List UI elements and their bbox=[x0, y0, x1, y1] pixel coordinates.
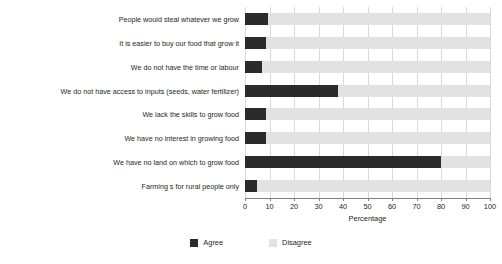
bar-row bbox=[245, 55, 490, 79]
bar-rows bbox=[245, 7, 490, 198]
x-axis-tick-label: 20 bbox=[290, 202, 298, 212]
category-label: We have no land on which to grow food bbox=[0, 158, 245, 167]
category-label: We do not have access to inputs (seeds, … bbox=[0, 86, 245, 95]
x-axis-tick-label: 10 bbox=[265, 202, 273, 212]
bar-row bbox=[245, 150, 490, 174]
bar-segment-agree[interactable] bbox=[245, 13, 268, 25]
chart-legend: Agree Disagree bbox=[0, 238, 502, 247]
x-axis-tick bbox=[417, 198, 418, 201]
bar-segment-disagree[interactable] bbox=[266, 108, 490, 120]
x-axis-tick-label: 70 bbox=[412, 202, 420, 212]
stacked-bar-chart: People would steal whatever we growIt is… bbox=[0, 0, 502, 264]
bar-segment-agree[interactable] bbox=[245, 108, 266, 120]
x-axis-tick-label: 40 bbox=[339, 202, 347, 212]
stacked-bar[interactable] bbox=[245, 180, 490, 192]
bar-row bbox=[245, 174, 490, 198]
legend-swatch-agree-icon bbox=[190, 239, 198, 247]
x-axis-tick-labels: 0102030405060708090100 bbox=[245, 202, 490, 214]
bar-segment-disagree[interactable] bbox=[441, 156, 490, 168]
category-label: Farming s for rural people only bbox=[0, 182, 245, 191]
x-axis-tick-label: 30 bbox=[314, 202, 322, 212]
x-axis-tick bbox=[343, 198, 344, 201]
bar-segment-agree[interactable] bbox=[245, 37, 266, 49]
bar-row bbox=[245, 31, 490, 55]
category-label: People would steal whatever we grow bbox=[0, 14, 245, 23]
x-axis-tick bbox=[392, 198, 393, 201]
x-axis-tick bbox=[294, 198, 295, 201]
plot-area bbox=[245, 7, 490, 198]
bar-segment-disagree[interactable] bbox=[266, 37, 490, 49]
bar-segment-agree[interactable] bbox=[245, 156, 441, 168]
bar-row bbox=[245, 103, 490, 127]
x-axis-tick bbox=[270, 198, 271, 201]
bar-segment-disagree[interactable] bbox=[338, 85, 490, 97]
legend-item-disagree[interactable]: Disagree bbox=[269, 238, 312, 247]
x-axis-tick bbox=[368, 198, 369, 201]
bar-row bbox=[245, 79, 490, 103]
bar-segment-disagree[interactable] bbox=[257, 180, 490, 192]
x-axis-tick bbox=[441, 198, 442, 201]
x-axis-tick-label: 80 bbox=[437, 202, 445, 212]
x-axis-tick bbox=[245, 198, 246, 201]
stacked-bar[interactable] bbox=[245, 61, 490, 73]
bar-segment-disagree[interactable] bbox=[262, 61, 490, 73]
bar-row bbox=[245, 7, 490, 31]
legend-label-agree: Agree bbox=[203, 238, 223, 247]
bar-row bbox=[245, 126, 490, 150]
x-axis-tick-label: 60 bbox=[388, 202, 396, 212]
category-label: We have no interest in growing food bbox=[0, 134, 245, 143]
bar-segment-agree[interactable] bbox=[245, 85, 338, 97]
stacked-bar[interactable] bbox=[245, 85, 490, 97]
bar-segment-disagree[interactable] bbox=[268, 13, 490, 25]
category-label: We lack the skills to grow food bbox=[0, 110, 245, 119]
legend-item-agree[interactable]: Agree bbox=[190, 238, 223, 247]
stacked-bar[interactable] bbox=[245, 132, 490, 144]
x-axis-title: Percentage bbox=[245, 214, 490, 224]
stacked-bar[interactable] bbox=[245, 37, 490, 49]
stacked-bar[interactable] bbox=[245, 108, 490, 120]
x-axis-tick-label: 90 bbox=[461, 202, 469, 212]
legend-swatch-disagree-icon bbox=[269, 239, 277, 247]
bar-segment-agree[interactable] bbox=[245, 61, 262, 73]
category-label: It is easier to buy our food that grow i… bbox=[0, 38, 245, 47]
bar-segment-disagree[interactable] bbox=[266, 132, 490, 144]
bar-segment-agree[interactable] bbox=[245, 180, 257, 192]
stacked-bar[interactable] bbox=[245, 156, 490, 168]
x-axis-tick bbox=[466, 198, 467, 201]
stacked-bar[interactable] bbox=[245, 13, 490, 25]
gridline bbox=[490, 7, 491, 198]
x-axis-tick bbox=[490, 198, 491, 201]
x-axis-tick-label: 50 bbox=[363, 202, 371, 212]
x-axis-tick-label: 0 bbox=[243, 202, 247, 212]
bar-segment-agree[interactable] bbox=[245, 132, 266, 144]
legend-label-disagree: Disagree bbox=[282, 238, 312, 247]
x-axis-tick bbox=[319, 198, 320, 201]
x-axis-tick-label: 100 bbox=[484, 202, 496, 212]
category-label: We do not have the time or labour bbox=[0, 62, 245, 71]
